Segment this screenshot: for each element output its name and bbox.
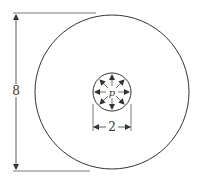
thick-cylinder-diagram: 8 2 p — [0, 0, 199, 182]
pressure-label: p — [109, 87, 116, 98]
diagram-canvas: 8 2 p — [0, 0, 199, 182]
inner-diameter-label: 2 — [108, 120, 116, 134]
outer-diameter-label: 8 — [12, 84, 20, 98]
